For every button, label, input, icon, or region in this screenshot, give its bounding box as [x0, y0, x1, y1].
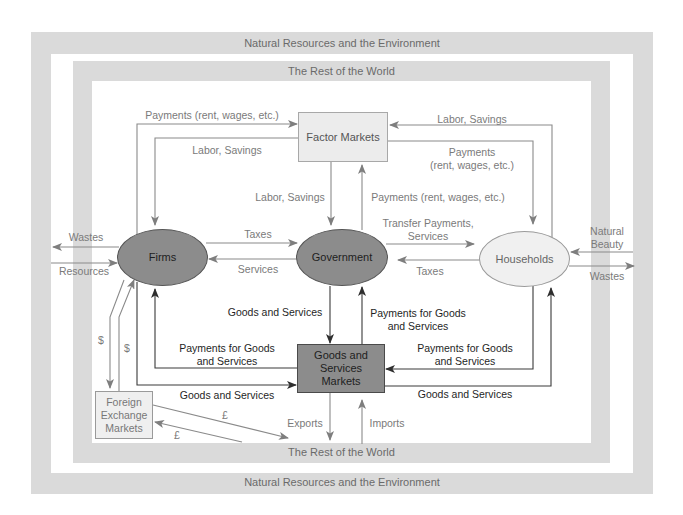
label-firms-to-factor-payments: Payments (rent, wages, etc.) [145, 109, 279, 122]
label-factor-to-government-labor: Labor, Savings [255, 191, 324, 204]
label-government-to-households-transfers: Transfer Payments, Services [382, 217, 473, 242]
label-line: Transfer Payments, [382, 217, 473, 230]
arrow-firms-goods [137, 282, 296, 385]
label-line: (rent, wages, etc.) [430, 158, 514, 171]
label-households-to-government-taxes: Taxes [416, 265, 443, 278]
label-households-to-factor-labor: Labor, Savings [437, 113, 506, 126]
government-node: Government [296, 229, 388, 286]
label-line: Payments (rent, wages, etc.) [371, 191, 505, 204]
label-line: Payments [430, 146, 514, 159]
label-fx-to-world-pound: £ [222, 409, 228, 422]
fx-label-line1: Foreign [106, 396, 142, 409]
label-line: Wastes [69, 231, 104, 244]
fx-label-line3: Markets [105, 422, 142, 435]
label-government-goods: Goods and Services [228, 306, 323, 319]
label-line: Payments for Goods [370, 307, 466, 320]
label-line: and Services [417, 354, 513, 367]
label-line: Labor, Savings [255, 191, 324, 204]
label-line: Beauty [590, 237, 624, 250]
goods-markets-label-line2: Services [320, 362, 362, 375]
label-line: Taxes [416, 265, 443, 278]
label-imports: Imports [369, 417, 404, 430]
label-government-payments-goods: Payments for Goods and Services [370, 307, 466, 332]
label-firms-wastes: Wastes [69, 231, 104, 244]
arrow-firms-to-fx-dollar [110, 280, 124, 388]
label-government-to-firms-services: Services [238, 263, 278, 276]
label-government-to-factor-payments: Payments (rent, wages, etc.) [371, 191, 505, 204]
arrow-firms-to-factor-payments [137, 124, 297, 240]
foreign-exchange-markets-box: Foreign Exchange Markets [95, 391, 153, 439]
label-line: Goods and Services [228, 306, 323, 319]
government-label: Government [312, 251, 373, 264]
label-firms-payments-goods: Payments for Goods and Services [179, 342, 275, 367]
firms-label: Firms [149, 251, 177, 264]
label-line: Payments for Goods [179, 342, 275, 355]
label-line: Labor, Savings [192, 144, 261, 157]
goods-services-markets-box: Goods and Services Markets [297, 344, 385, 393]
label-firms-goods: Goods and Services [180, 389, 275, 402]
label-households-goods: Goods and Services [418, 388, 513, 401]
label-line: Services [382, 229, 473, 242]
label-factor-to-firms-labor: Labor, Savings [192, 144, 261, 157]
factor-markets-label: Factor Markets [306, 131, 379, 144]
label-exports: Exports [287, 417, 323, 430]
label-line: Goods and Services [180, 389, 275, 402]
label-fx-to-firms-dollar: $ [124, 342, 130, 355]
label-line: Taxes [244, 228, 271, 241]
label-households-wastes: Wastes [590, 270, 625, 283]
label-line: $ [98, 334, 104, 347]
label-world-to-fx-pound: £ [174, 429, 180, 442]
label-households-payments-goods: Payments for Goods and Services [417, 342, 513, 367]
arrow-fx-to-firms-dollar [119, 280, 134, 391]
label-line: £ [222, 409, 228, 422]
label-firms-to-fx-dollar: $ [98, 334, 104, 347]
label-line: Wastes [590, 270, 625, 283]
arrow-world-to-fx-pound [155, 422, 242, 442]
label-line: $ [124, 342, 130, 355]
label-natural-beauty: Natural Beauty [590, 225, 624, 250]
households-node: Households [479, 231, 570, 287]
label-line: Services [238, 263, 278, 276]
label-line: Payments for Goods [417, 342, 513, 355]
label-line: Imports [369, 417, 404, 430]
goods-markets-label-line3: Markets [321, 375, 360, 388]
label-line: Resources [59, 265, 109, 278]
fx-label-line2: Exchange [101, 409, 148, 422]
households-label: Households [495, 253, 553, 266]
label-line: Exports [287, 417, 323, 430]
label-line: Payments (rent, wages, etc.) [145, 109, 279, 122]
label-firms-resources: Resources [59, 265, 109, 278]
label-line: Goods and Services [418, 388, 513, 401]
label-line: Natural [590, 225, 624, 238]
label-factor-to-households-payments: Payments (rent, wages, etc.) [430, 146, 514, 171]
label-line: £ [174, 429, 180, 442]
factor-markets-box: Factor Markets [298, 112, 388, 162]
label-line: Labor, Savings [437, 113, 506, 126]
label-firms-to-government-taxes: Taxes [244, 228, 271, 241]
label-line: and Services [179, 354, 275, 367]
firms-node: Firms [117, 229, 208, 286]
goods-markets-label-line1: Goods and [314, 349, 368, 362]
arrow-households-goods [385, 288, 551, 386]
label-line: and Services [370, 319, 466, 332]
